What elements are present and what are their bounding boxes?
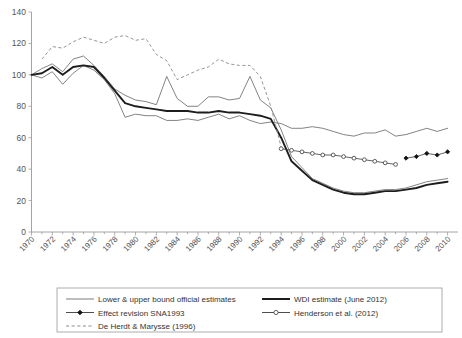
legend-item[interactable]: Lower & upper bound official estimates — [66, 295, 236, 304]
y-tick-label: 0 — [21, 227, 26, 237]
x-tick-label: 1986 — [184, 234, 203, 253]
x-tick-label: 2006 — [392, 234, 411, 253]
legend-item[interactable]: De Herdt & Marysse (1996) — [66, 322, 196, 331]
data-point-marker — [352, 156, 356, 160]
legend-label: De Herdt & Marysse (1996) — [98, 322, 196, 331]
x-tick-label: 1992 — [246, 234, 265, 253]
data-point-marker — [414, 154, 418, 158]
y-tick-label: 80 — [17, 101, 27, 111]
x-tick-label: 1970 — [17, 234, 36, 253]
x-tick-label: 2008 — [413, 234, 432, 253]
legend-label: Lower & upper bound official estimates — [98, 295, 236, 304]
x-tick-label: 1984 — [163, 234, 182, 253]
data-point-marker — [300, 150, 304, 154]
data-point-marker — [290, 148, 294, 152]
y-tick-label: 20 — [17, 196, 27, 206]
data-point-marker — [342, 155, 346, 159]
data-point-marker — [394, 163, 398, 167]
data-point-marker — [404, 156, 408, 160]
series-line — [281, 149, 395, 165]
legend-marker — [78, 310, 83, 315]
x-tick-label: 1980 — [121, 234, 140, 253]
legend-item[interactable]: WDI estimate (June 2012) — [262, 295, 387, 304]
x-tick-label: 1978 — [101, 234, 120, 253]
y-tick-label: 40 — [17, 164, 27, 174]
data-point-marker — [445, 150, 449, 154]
x-tick-label: 1982 — [142, 234, 161, 253]
x-tick-label: 2000 — [330, 234, 349, 253]
x-axis-tick-group: 1970197219741976197819801982198419861988… — [17, 232, 452, 253]
y-tick-label: 60 — [17, 133, 27, 143]
series-filled-diamond-markers — [404, 150, 450, 160]
line-chart: 020406080100120140 197019721974197619781… — [0, 0, 462, 338]
legend-label: Henderson et al. (2012) — [294, 309, 378, 318]
legend-item[interactable]: Henderson et al. (2012) — [262, 309, 378, 318]
x-tick-label: 1988 — [205, 234, 224, 253]
series-line — [32, 65, 448, 136]
x-tick-label: 2010 — [434, 234, 453, 253]
x-tick-label: 2002 — [350, 234, 369, 253]
data-point-marker — [435, 153, 439, 157]
y-tick-label: 140 — [12, 7, 26, 17]
series-line — [32, 56, 448, 193]
series-layer — [32, 36, 450, 195]
data-point-marker — [310, 152, 314, 156]
data-point-marker — [373, 159, 377, 163]
series-open-circle-markers — [279, 147, 397, 167]
y-axis-tick-group: 020406080100120140 — [12, 7, 32, 237]
y-tick-label: 120 — [12, 38, 26, 48]
x-tick-label: 2004 — [371, 234, 390, 253]
data-point-marker — [331, 153, 335, 157]
x-tick-label: 1990 — [226, 234, 245, 253]
data-point-marker — [279, 147, 283, 151]
data-point-marker — [362, 158, 366, 162]
x-tick-label: 1996 — [288, 234, 307, 253]
legend-label: WDI estimate (June 2012) — [294, 295, 387, 304]
series-thin-solid — [32, 56, 448, 193]
chart-container: 020406080100120140 197019721974197619781… — [0, 0, 462, 338]
series-thin-solid — [32, 65, 448, 136]
legend-item[interactable]: Effect revision SNA1993 — [66, 309, 185, 318]
data-point-marker — [425, 151, 429, 155]
x-tick-label: 1972 — [38, 234, 57, 253]
chart-legend: Lower & upper bound official estimatesWD… — [57, 288, 442, 332]
x-tick-label: 1994 — [267, 234, 286, 253]
legend-label: Effect revision SNA1993 — [98, 309, 185, 318]
data-point-marker — [321, 153, 325, 157]
x-tick-label: 1998 — [309, 234, 328, 253]
y-tick-label: 100 — [12, 70, 26, 80]
x-tick-label: 1976 — [80, 234, 99, 253]
legend-marker — [274, 310, 278, 314]
x-tick-label: 1974 — [59, 234, 78, 253]
data-point-marker — [383, 161, 387, 165]
